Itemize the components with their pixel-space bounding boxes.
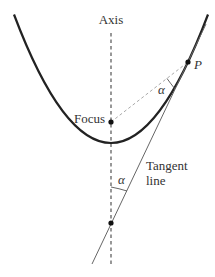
angle-arc-top bbox=[167, 79, 175, 90]
focus-label: Focus bbox=[74, 111, 105, 126]
tangent-label-line2: line bbox=[146, 173, 166, 188]
angle-label-top: α bbox=[158, 82, 166, 97]
axis-label: Axis bbox=[99, 12, 124, 27]
parabola-diagram: Axis Focus P α α Tangent line bbox=[0, 0, 215, 277]
tangent-label-line1: Tangent bbox=[146, 158, 188, 173]
angle-label-bottom: α bbox=[118, 172, 126, 187]
point-p-label: P bbox=[193, 57, 202, 72]
focus-dot bbox=[108, 119, 113, 124]
angle-arc-bottom bbox=[111, 187, 127, 191]
focus-to-point-segment bbox=[111, 62, 188, 122]
tangent-axis-intersection-dot bbox=[108, 220, 113, 225]
diagram-canvas: Axis Focus P α α Tangent line bbox=[0, 0, 215, 277]
point-p-dot bbox=[185, 59, 190, 64]
